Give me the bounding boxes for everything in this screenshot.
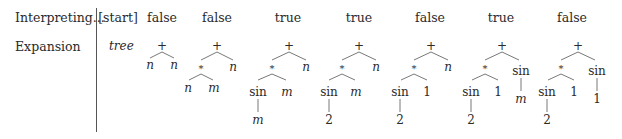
tree5-times: * xyxy=(412,63,417,74)
tree7-plus: + xyxy=(573,39,583,53)
tree7-sin-arg-2: 2 xyxy=(543,113,551,127)
tree5-sin: sin xyxy=(391,85,409,99)
tree5-one: 1 xyxy=(423,85,431,99)
tree1-n-right: n xyxy=(170,58,178,72)
tree6-sin-arg-2: 2 xyxy=(467,113,475,127)
tree6-sin: sin xyxy=(462,85,480,99)
tree6-one: 1 xyxy=(494,85,502,99)
tree1-plus: + xyxy=(157,39,167,53)
tree6-sin-arg-m: m xyxy=(515,92,526,106)
tree7-sin-right: sin xyxy=(588,64,606,78)
tree4-sin: sin xyxy=(320,85,338,99)
tree6-times: * xyxy=(483,63,488,74)
tree2-n: n xyxy=(229,60,237,74)
tree7-sin: sin xyxy=(538,85,556,99)
tree4-times: * xyxy=(340,63,345,74)
tree3-m: m xyxy=(281,85,292,99)
tree4-m: m xyxy=(350,85,361,99)
tree2-n-inner: n xyxy=(184,81,192,95)
tree2-times: * xyxy=(199,63,204,74)
tree3-plus: + xyxy=(284,39,294,53)
tree6-sin-right: sin xyxy=(512,64,530,78)
tree6-plus: + xyxy=(497,39,507,53)
tree4-n: n xyxy=(372,60,380,74)
tree3-sin-arg-m: m xyxy=(252,113,263,127)
tree2-m: m xyxy=(208,81,219,95)
tree5-n: n xyxy=(444,60,452,74)
tree3-sin: sin xyxy=(249,85,267,99)
tree4-sin-arg-2: 2 xyxy=(325,113,333,127)
tree2-plus: + xyxy=(212,39,222,53)
tree3-n: n xyxy=(302,60,310,74)
tree5-sin-arg-2: 2 xyxy=(396,113,404,127)
tree5-plus: + xyxy=(426,39,436,53)
tree7-sin-arg-1: 1 xyxy=(593,92,601,106)
tree4-plus: + xyxy=(354,39,364,53)
tree1-n-left: n xyxy=(146,58,154,72)
tree7-times: * xyxy=(559,63,564,74)
tree7-one: 1 xyxy=(570,85,578,99)
tree3-times: * xyxy=(270,63,275,74)
expansion-trees: + n n + * n n m + * n sin m m + * n sin … xyxy=(0,0,622,139)
